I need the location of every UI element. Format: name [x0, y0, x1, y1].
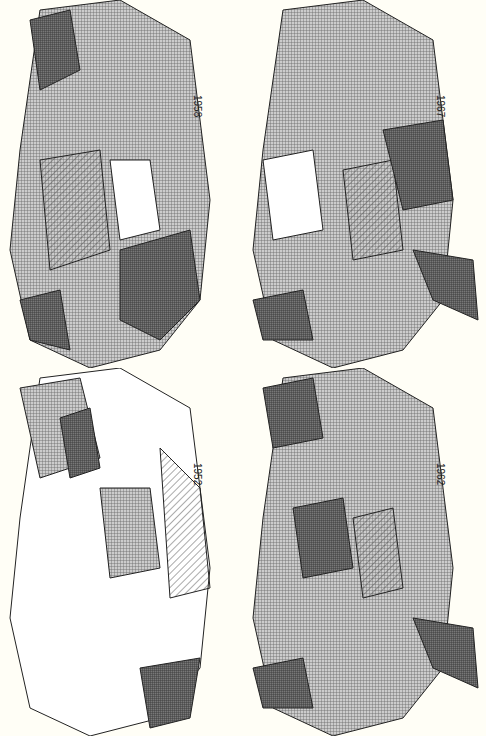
map-panel-1958: 1958	[0, 0, 243, 368]
us-map-rotated	[243, 368, 486, 736]
year-label: 1952	[192, 463, 203, 485]
map-panel-1952: 1952	[0, 368, 243, 736]
year-label: 1967	[435, 95, 446, 117]
year-label: 1958	[192, 95, 203, 117]
us-map-rotated	[0, 0, 243, 368]
us-map-rotated	[243, 0, 486, 368]
us-map-rotated	[0, 368, 243, 736]
year-label: 1962	[435, 463, 446, 485]
map-panel-1967: 1967	[243, 0, 486, 368]
map-panel-1962: 1962	[243, 368, 486, 736]
